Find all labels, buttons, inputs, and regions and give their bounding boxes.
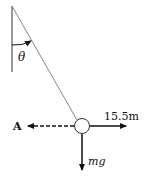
angle-arc (12, 41, 31, 45)
force-label-left: A (12, 120, 22, 133)
pendulum-diagram: θ 15.5m mg A (0, 0, 146, 182)
angle-label: θ (18, 50, 26, 64)
force-label-right: 15.5m (104, 110, 139, 123)
force-label-down: mg (88, 155, 105, 168)
pendulum-bob (75, 119, 90, 134)
